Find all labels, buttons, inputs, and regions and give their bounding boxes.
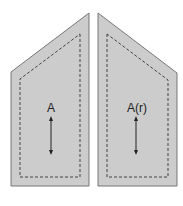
piece-a bbox=[11, 13, 89, 186]
pattern-diagram bbox=[0, 0, 183, 206]
piece-label-a: A bbox=[47, 101, 55, 115]
piece-a-reversed bbox=[98, 13, 177, 186]
piece-label-a-reversed: A(r) bbox=[127, 101, 147, 115]
